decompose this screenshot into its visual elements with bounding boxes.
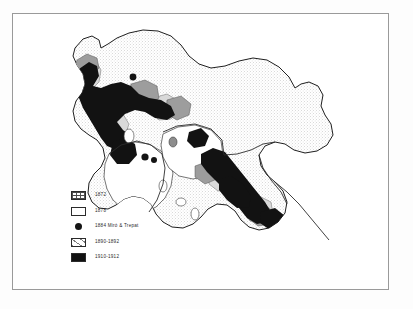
plate-frame: 1872 1878 1884 Miró & Trepat 1890-1892 1… — [12, 13, 389, 290]
figure-plate: 1872 1878 1884 Miró & Trepat 1890-1892 1… — [0, 0, 413, 309]
legend-swatch-light-1890 — [71, 238, 86, 247]
legend-swatch-stippled-1878 — [71, 207, 86, 216]
legend-swatch-dot-marker — [71, 222, 86, 231]
marker-central — [141, 153, 148, 160]
map-legend: 1872 1878 1884 Miró & Trepat 1890-1892 1… — [71, 188, 201, 266]
region-map-svg — [13, 14, 390, 291]
legend-swatch-hatched-1872 — [71, 191, 86, 200]
legend-item-1910: 1910-1912 — [71, 250, 201, 266]
legend-swatch-solid-1910 — [71, 253, 86, 262]
legend-label-1910: 1910-1912 — [95, 255, 119, 260]
legend-label-1872: 1872 — [95, 193, 106, 198]
legend-label-1884: 1884 Miró & Trepat — [95, 224, 139, 229]
marker-central-east — [151, 157, 157, 163]
legend-item-1884: 1884 Miró & Trepat — [71, 219, 201, 235]
marker-north — [130, 74, 137, 81]
legend-item-1872: 1872 — [71, 188, 201, 204]
legend-item-1890: 1890-1892 — [71, 235, 201, 251]
legend-label-1878: 1878 — [95, 209, 106, 214]
legend-label-1890: 1890-1892 — [95, 240, 119, 245]
map-area — [13, 14, 390, 291]
legend-item-1878: 1878 — [71, 204, 201, 220]
